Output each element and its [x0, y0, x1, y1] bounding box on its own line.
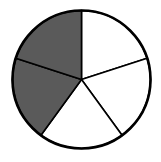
fraction-circle-diagram [0, 0, 161, 162]
